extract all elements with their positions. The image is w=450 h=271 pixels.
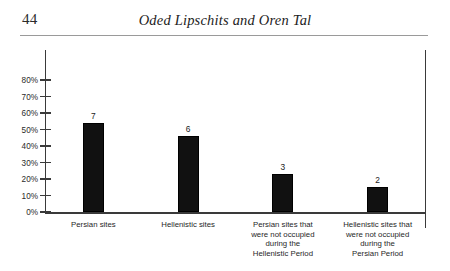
y-axis-tick-label: 50% — [4, 125, 38, 134]
category-label: Persian sites thatwere not occupieddurin… — [235, 220, 331, 258]
bar-value-label: 6 — [168, 124, 208, 134]
y-axis-tick — [40, 129, 51, 130]
category-label-line: Persian sites — [45, 220, 141, 230]
bar-chart: 0%10%20%30%40%50%60%70%80% 7632 Persian … — [0, 44, 450, 271]
bar-value-label: 7 — [73, 111, 113, 121]
x-axis-line — [45, 212, 426, 214]
bar — [367, 187, 388, 212]
category-label: Persian sites — [45, 220, 141, 230]
category-label: Hellenistic sites thatwere not occupiedd… — [330, 220, 426, 258]
y-axis-tick — [40, 79, 51, 80]
y-axis-tick-label: 40% — [4, 142, 38, 151]
category-label: Hellenistic sites — [140, 220, 236, 230]
bar — [178, 136, 199, 212]
bar — [272, 174, 293, 212]
category-label-line: were not occupied — [235, 230, 331, 240]
category-label-line: were not occupied — [330, 230, 426, 240]
y-axis-tick-label: 60% — [4, 109, 38, 118]
y-axis-tick-label: 0% — [4, 208, 38, 217]
y-axis-tick — [40, 96, 51, 97]
y-axis-tick — [40, 162, 51, 163]
y-axis-tick — [40, 178, 51, 179]
y-axis-tick-label: 10% — [4, 191, 38, 200]
y-axis-tick-label: 20% — [4, 175, 38, 184]
category-label-line: during the — [330, 239, 426, 249]
bar — [83, 123, 104, 212]
y-axis-tick — [40, 145, 51, 146]
y-axis-tick-label: 30% — [4, 158, 38, 167]
category-label-line: Hellenistic sites that — [330, 220, 426, 230]
category-label-line: Hellenistic Period — [235, 249, 331, 259]
running-title: Oded Lipschits and Oren Tal — [0, 12, 450, 29]
y-axis-tick — [40, 195, 51, 196]
category-label-line: during the — [235, 239, 331, 249]
y-axis-tick-label: 80% — [4, 76, 38, 85]
y-axis-tick — [40, 112, 51, 113]
page-header: 44 Oded Lipschits and Oren Tal — [0, 0, 450, 40]
category-label-line: Persian Period — [330, 249, 426, 259]
y-axis-line — [45, 50, 46, 214]
bar-value-label: 2 — [358, 175, 398, 185]
y-axis-tick — [40, 211, 51, 212]
category-label-line: Hellenistic sites — [140, 220, 236, 230]
y-axis-tick-label: 70% — [4, 92, 38, 101]
category-label-line: Persian sites that — [235, 220, 331, 230]
bar-value-label: 3 — [263, 162, 303, 172]
header-divider — [20, 35, 428, 36]
